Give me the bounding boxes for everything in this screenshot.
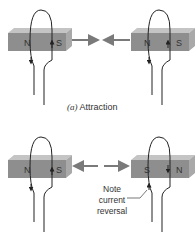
pole-label: S: [144, 165, 150, 175]
current-loop-a-right: [148, 10, 170, 105]
note-line: Note: [96, 184, 128, 195]
note-leader-line: [127, 190, 147, 198]
note-line: reversal: [96, 206, 128, 217]
caption-text: Attraction: [80, 102, 118, 112]
caption-attraction: (a) Attraction: [67, 102, 118, 112]
magnet-a-right: N S: [131, 28, 195, 51]
magnet-b-right: S N: [131, 155, 195, 178]
magnet-a-left: N S: [8, 28, 72, 51]
pole-label: S: [56, 165, 62, 175]
pole-label: S: [176, 38, 182, 48]
current-loop-b-left: [30, 137, 52, 232]
pole-label: S: [56, 38, 62, 48]
pole-label: N: [144, 38, 151, 48]
caption-letter: (a): [67, 102, 78, 112]
pole-label: N: [176, 165, 183, 175]
magnet-b-left: N S: [8, 155, 72, 178]
note-line: current: [96, 195, 128, 206]
current-loop-b-right: [148, 137, 170, 232]
note-current-reversal: Note current reversal: [96, 184, 128, 217]
current-loop-a-left: [30, 10, 52, 105]
